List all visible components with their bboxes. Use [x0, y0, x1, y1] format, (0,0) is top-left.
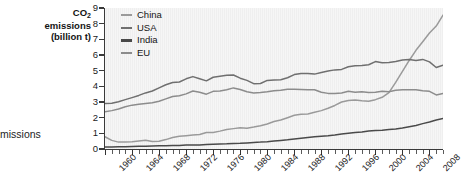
- y-tick-label: 2: [93, 113, 98, 123]
- legend-swatch-icon: [121, 39, 132, 41]
- legend: ChinaUSAIndiaEU: [121, 9, 162, 59]
- x-tick-label: 1968: [171, 152, 192, 173]
- x-tick-label: 1984: [279, 152, 300, 173]
- y-tick: [99, 133, 104, 134]
- legend-swatch-icon: [121, 14, 132, 16]
- legend-label: India: [137, 34, 158, 47]
- legend-item-eu: EU: [121, 47, 162, 60]
- x-axis-tick-labels: 1960196419681972197619801984198819921996…: [105, 152, 443, 192]
- legend-item-usa: USA: [121, 22, 162, 35]
- legend-label: China: [137, 9, 162, 22]
- series-line-usa: [105, 59, 443, 103]
- legend-swatch-icon: [121, 52, 132, 54]
- y-tick: [99, 39, 104, 40]
- y-tick: [99, 7, 104, 8]
- y-tick-label: 4: [93, 81, 98, 91]
- legend-swatch-icon: [121, 27, 132, 29]
- x-tick-label: 1960: [117, 152, 138, 173]
- y-axis-ticks: [99, 8, 105, 150]
- y-tick: [99, 54, 104, 55]
- x-tick-label: 2000: [387, 152, 408, 173]
- y-tick: [99, 148, 104, 149]
- legend-item-china: China: [121, 9, 162, 22]
- caption-fragment: missions: [0, 128, 41, 140]
- x-tick: [443, 150, 444, 154]
- x-tick-label: 1992: [333, 152, 354, 173]
- y-tick-label: 1: [93, 128, 98, 138]
- x-tick-label: 1972: [198, 152, 219, 173]
- y-tick-label: 6: [93, 50, 98, 60]
- series-line-india: [105, 118, 443, 147]
- y-tick: [99, 86, 104, 87]
- y-tick-label: 5: [93, 66, 98, 76]
- y-tick-label: 7: [93, 34, 98, 44]
- x-tick-label: 1980: [252, 152, 273, 173]
- y-tick: [99, 117, 104, 118]
- y-tick: [99, 70, 104, 71]
- x-tick-label: 2008: [441, 152, 462, 173]
- y-tick-label: 9: [93, 3, 98, 13]
- series-line-eu: [105, 88, 443, 112]
- legend-item-india: India: [121, 34, 162, 47]
- y-tick: [99, 23, 104, 24]
- y-tick-label: 3: [93, 97, 98, 107]
- x-tick-label: 1996: [360, 152, 381, 173]
- x-tick-label: 1988: [306, 152, 327, 173]
- y-tick: [99, 101, 104, 102]
- x-tick-label: 1964: [144, 152, 165, 173]
- y-tick-label: 8: [93, 19, 98, 29]
- y-tick-label: 0: [93, 144, 98, 154]
- legend-label: EU: [137, 47, 150, 60]
- x-tick-label: 1976: [225, 152, 246, 173]
- y-axis-tick-labels: 0123456789: [78, 0, 98, 160]
- x-tick-label: 2004: [414, 152, 435, 173]
- legend-label: USA: [137, 22, 157, 35]
